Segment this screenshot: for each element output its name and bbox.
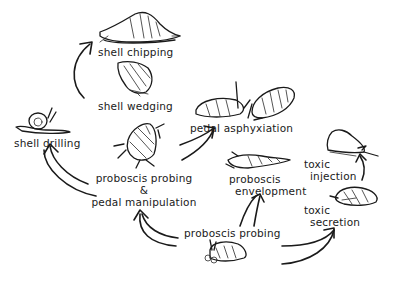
label-toxic-injection: toxic injection: [304, 158, 357, 182]
label-shell-drilling: shell drilling: [14, 137, 81, 149]
label-pedal-asphyxiation: pedal asphyxiation: [190, 122, 293, 134]
snail-shell-chipping-icon: [100, 12, 180, 43]
snail-shell-drilling-icon: [16, 108, 70, 133]
arrow-probing-to-envelopment: [240, 194, 264, 226]
arrow-probing-to-secretion: [282, 228, 334, 264]
label-line1: proboscis: [229, 173, 306, 185]
arrow-secretion-to-injection: [356, 154, 366, 180]
cone-shell-injection-icon: [327, 130, 378, 156]
label-line2: secretion: [304, 216, 360, 228]
label-toxic-secretion: toxic secretion: [304, 204, 360, 228]
arrow-wedging-to-chipping: [74, 42, 92, 98]
label-line2: injection: [304, 170, 357, 182]
label-shell-chipping: shell chipping: [98, 46, 173, 58]
label-line1: toxic: [304, 204, 360, 216]
label-line1: proboscis probing: [90, 172, 198, 184]
shell-wedging-icon: [118, 62, 152, 96]
label-shell-wedging: shell wedging: [98, 100, 173, 112]
label-line3: pedal manipulation: [90, 196, 198, 208]
label-line2: &: [90, 184, 198, 196]
gastropod-probing-icon: [114, 124, 164, 168]
snails-pedal-asphyxiation-icon: [196, 82, 294, 120]
label-proboscis-probing: proboscis probing: [184, 227, 281, 239]
feeding-strategy-diagram: shell chipping shell wedging shell drill…: [0, 0, 393, 287]
label-line2: envelopment: [229, 185, 306, 197]
label-proboscis-envelopment: proboscis envelopment: [229, 173, 306, 197]
auger-shell-envelopment-icon: [226, 152, 290, 168]
whelk-secretion-icon: [330, 187, 377, 205]
label-line1: toxic: [304, 158, 357, 170]
snail-proboscis-probing-icon: [205, 240, 246, 263]
arrow-pedal-to-drilling: [44, 144, 96, 196]
label-proboscis-probing-pedal: proboscis probing & pedal manipulation: [90, 172, 198, 208]
arrow-probing-to-pedal: [134, 210, 178, 246]
